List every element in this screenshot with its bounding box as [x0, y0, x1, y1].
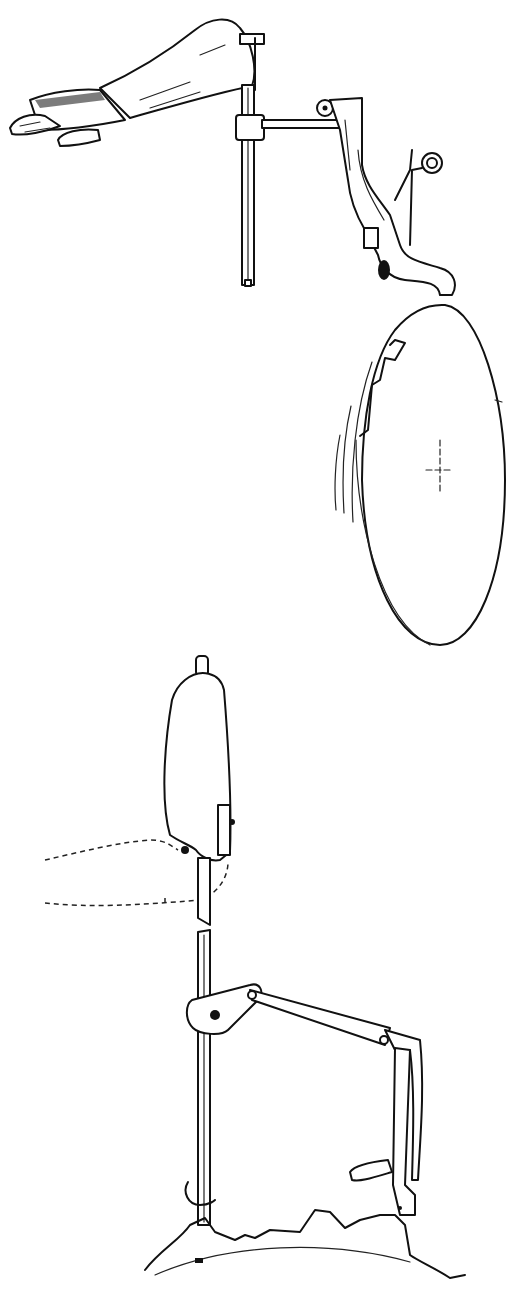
broken-rod — [198, 858, 210, 1225]
collar — [236, 115, 264, 140]
motion-lines — [335, 362, 372, 522]
center-cross — [426, 440, 452, 492]
follower-tab — [350, 1160, 392, 1181]
bottom-panel — [45, 656, 465, 1278]
notched-disc — [356, 305, 505, 645]
horizontal-arm — [262, 120, 346, 128]
link-arm — [248, 990, 390, 1045]
top-panel — [10, 20, 505, 645]
mechanism-illustration — [0, 0, 526, 1304]
forearm-hand — [10, 20, 254, 146]
bent-lever — [385, 1030, 422, 1215]
profiled-track — [145, 1210, 465, 1278]
coil-spring — [410, 153, 442, 245]
